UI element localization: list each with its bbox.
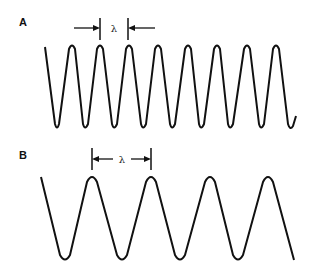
lambda-b-symbol: λ — [119, 154, 126, 165]
lambda-a-symbol: λ — [111, 23, 118, 34]
wavelength-marker-a: λ — [74, 18, 155, 40]
wavelength-marker-b: λ — [92, 148, 151, 170]
wave-diagram: λ λ — [0, 0, 319, 278]
wave-a — [45, 46, 296, 129]
wave-b — [41, 177, 294, 260]
